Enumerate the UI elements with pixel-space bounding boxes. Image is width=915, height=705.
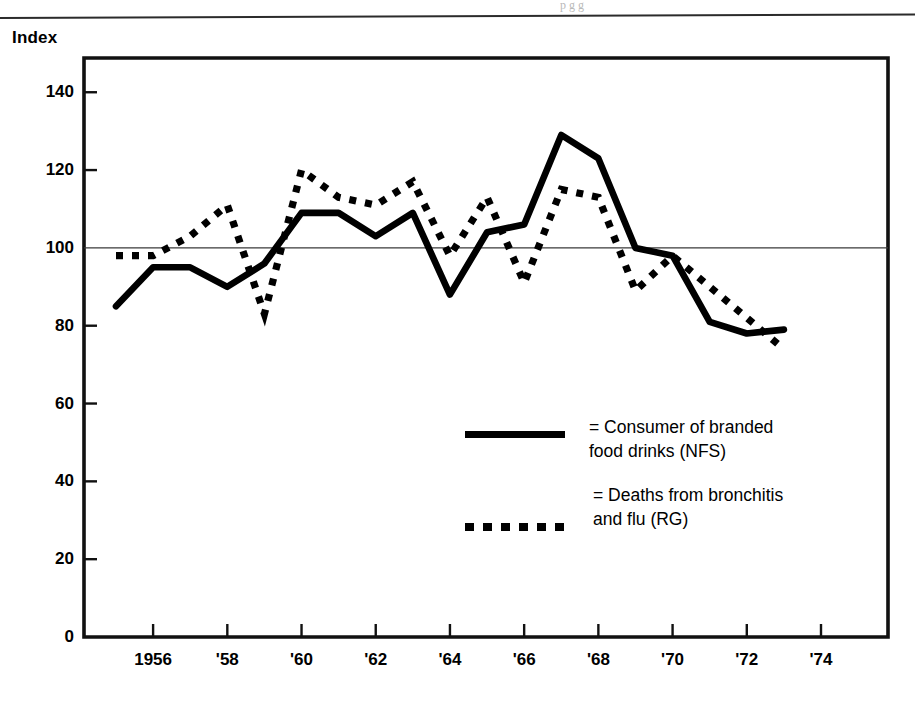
chart-plot-area bbox=[0, 0, 915, 705]
chart-legend: = Consumer of branded food drinks (NFS) … bbox=[465, 415, 825, 551]
x-axis-tick-label: '66 bbox=[513, 650, 536, 670]
x-axis-tick-label: '68 bbox=[587, 650, 610, 670]
chart-svg bbox=[0, 0, 915, 705]
x-axis-tick-label: '70 bbox=[661, 650, 684, 670]
x-axis-tick-labels: 1956'58'60'62'64'66'68'70'72'74 bbox=[0, 650, 915, 680]
x-axis-tick-label: 1956 bbox=[134, 650, 172, 670]
legend-item-rg: = Deaths from bronchitis and flu (RG) bbox=[465, 483, 825, 551]
solid-line-key-icon bbox=[465, 431, 565, 438]
y-axis-tick-label: 20 bbox=[14, 549, 74, 569]
y-axis-tick-label: 0 bbox=[14, 627, 74, 647]
x-axis-tick-label: '58 bbox=[216, 650, 239, 670]
y-axis-tick-label: 140 bbox=[14, 82, 74, 102]
x-axis-tick-label: '64 bbox=[438, 650, 461, 670]
dotted-line-key-icon bbox=[465, 523, 565, 531]
y-axis-tick-label: 120 bbox=[14, 160, 74, 180]
x-axis-tick-label: '72 bbox=[735, 650, 758, 670]
x-axis-tick-label: '74 bbox=[810, 650, 833, 670]
y-axis-tick-label: 80 bbox=[14, 316, 74, 336]
series-line-nfs bbox=[116, 135, 784, 334]
y-axis-tick-label: 100 bbox=[14, 238, 74, 258]
x-axis-tick-label: '60 bbox=[290, 650, 313, 670]
y-axis-tick-label: 60 bbox=[14, 394, 74, 414]
y-axis-tick-labels: 140120100806040200 bbox=[12, 0, 74, 705]
legend-label-nfs: = Consumer of branded food drinks (NFS) bbox=[589, 415, 773, 463]
y-axis-tick-label: 40 bbox=[14, 471, 74, 491]
series-line-rg bbox=[116, 170, 784, 349]
legend-item-nfs: = Consumer of branded food drinks (NFS) bbox=[465, 415, 825, 483]
legend-label-rg: = Deaths from bronchitis and flu (RG) bbox=[593, 483, 783, 531]
x-axis-tick-label: '62 bbox=[364, 650, 387, 670]
